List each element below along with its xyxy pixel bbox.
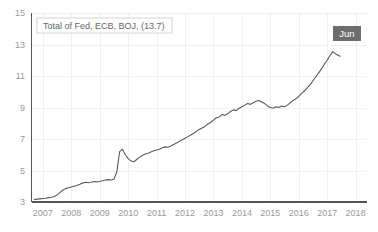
x-tick-label-2013: 2013	[203, 208, 223, 218]
y-tick-label-13: 13	[15, 40, 25, 50]
y-tick-label-3: 3	[20, 197, 25, 207]
y-tick-label-9: 9	[20, 103, 25, 113]
legend-label: Total of Fed, ECB, BOJ, (13.7)	[43, 21, 165, 31]
central-bank-balance-sheet-line-chart: 3579111315 20072008200920102011201220132…	[0, 0, 378, 232]
x-tick-label-2014: 2014	[232, 208, 252, 218]
x-tick-label-2017: 2017	[317, 208, 337, 218]
last-point-marker: Jun	[333, 26, 361, 41]
x-axis-tick-labels: 2007200820092010201120122013201420152016…	[33, 208, 366, 218]
x-tick-label-2008: 2008	[61, 208, 81, 218]
y-tick-label-5: 5	[20, 166, 25, 176]
x-tick-label-2012: 2012	[175, 208, 195, 218]
x-tick-label-2007: 2007	[33, 208, 53, 218]
chart-container: 3579111315 20072008200920102011201220132…	[0, 0, 378, 232]
legend: Total of Fed, ECB, BOJ, (13.7)	[37, 18, 172, 33]
y-axis-tick-labels: 3579111315	[15, 8, 25, 207]
x-tick-label-2015: 2015	[260, 208, 280, 218]
x-tick-label-2009: 2009	[90, 208, 110, 218]
gridlines-vertical	[44, 13, 357, 202]
x-tick-label-2010: 2010	[118, 208, 138, 218]
y-tick-label-11: 11	[16, 71, 25, 81]
y-tick-label-15: 15	[15, 8, 25, 18]
marker-label: Jun	[339, 28, 354, 39]
gridlines-horizontal	[32, 14, 368, 172]
x-tick-label-2016: 2016	[289, 208, 309, 218]
x-tick-label-2011: 2011	[147, 208, 166, 218]
y-tick-label-7: 7	[20, 134, 25, 144]
data-line-total-fed-ecb-boj	[34, 52, 340, 200]
x-tick-label-2018: 2018	[346, 208, 366, 218]
